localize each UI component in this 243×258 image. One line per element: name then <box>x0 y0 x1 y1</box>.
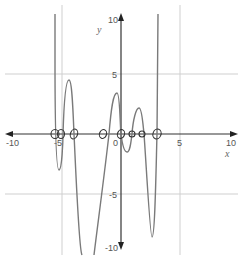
y-tick-neg10: -10 <box>105 243 118 253</box>
graph-plot: -10 -5 0 5 10 10 5 -5 -10 y x <box>0 0 243 258</box>
y-tick-10: 10 <box>108 15 118 25</box>
y-axis-down-arrow-icon <box>118 242 124 250</box>
x-tick-5: 5 <box>177 138 182 148</box>
x-tick-0: 0 <box>113 138 118 148</box>
x-axis-left-arrow-icon <box>5 131 13 137</box>
y-axis-label: y <box>96 24 102 35</box>
y-axis-up-arrow-icon <box>118 13 124 21</box>
y-tick-neg5: -5 <box>109 190 117 200</box>
x-axis-label: x <box>224 148 230 159</box>
x-axis-right-arrow-icon <box>230 131 238 137</box>
x-tick-neg10: -10 <box>6 138 19 148</box>
x-tick-10: 10 <box>226 138 236 148</box>
x-tick-neg5: -5 <box>54 138 62 148</box>
y-tick-5: 5 <box>112 70 117 80</box>
